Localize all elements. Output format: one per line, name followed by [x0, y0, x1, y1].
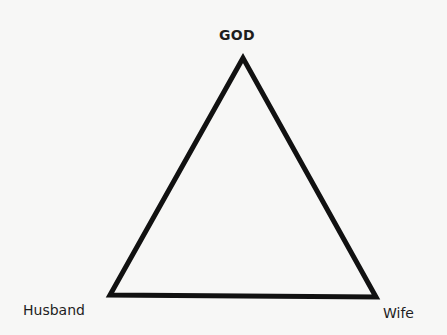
triangle-shape — [0, 0, 447, 335]
node-label-wife: Wife — [383, 306, 414, 320]
node-label-husband: Husband — [23, 303, 85, 317]
triangle-diagram — [0, 0, 447, 335]
node-label-god: GOD — [219, 28, 255, 42]
